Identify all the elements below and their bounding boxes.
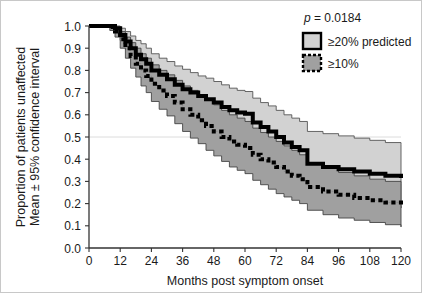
y-tick-label-0.8: 0.8 [64,64,81,78]
y-tick-label-0.7: 0.7 [64,86,81,100]
legend-swatch-10pct [303,55,321,71]
p-value-number: = 0.0184 [311,11,362,25]
x-axis-title: Months post symptom onset [167,274,324,288]
x-tick-label-48: 48 [207,254,221,268]
y-tick-label-0.3: 0.3 [64,175,81,189]
y-tick-label-0.2: 0.2 [64,197,81,211]
y-tick-label-0.6: 0.6 [64,108,81,122]
x-tick-label-36: 36 [176,254,190,268]
x-tick-label-96: 96 [332,254,346,268]
y-tick-label-0.9: 0.9 [64,42,81,56]
y-axis-title-line2: Mean ± 95% confidence interval [28,48,42,226]
x-tick-label-24: 24 [145,254,159,268]
y-tick-label-0.1: 0.1 [64,219,81,233]
x-tick-label-0: 0 [86,254,93,268]
legend-swatch-20pct [303,33,321,49]
kaplan-meier-chart: 01224364860728496108120 0.00.10.20.30.40… [1,1,422,293]
y-tick-label-0.5: 0.5 [64,131,81,145]
y-tick-label-0.0: 0.0 [64,242,81,256]
y-tick-label-0.4: 0.4 [64,153,81,167]
x-tick-label-108: 108 [360,254,380,268]
x-tick-label-72: 72 [270,254,284,268]
x-tick-label-120: 120 [391,254,411,268]
x-tick-label-60: 60 [238,254,252,268]
figure-container: 01224364860728496108120 0.00.10.20.30.40… [0,0,422,293]
p-value-annotation: p = 0.0184 [303,11,361,25]
y-tick-label-1.0: 1.0 [64,20,81,34]
legend-label-20pct: ≥20% predicted [328,35,411,49]
x-tick-label-84: 84 [301,254,315,268]
y-axis-title-line1: Proportion of patients unaffected [14,47,28,227]
legend-label-10pct: ≥10% [328,57,359,71]
x-tick-label-12: 12 [114,254,128,268]
